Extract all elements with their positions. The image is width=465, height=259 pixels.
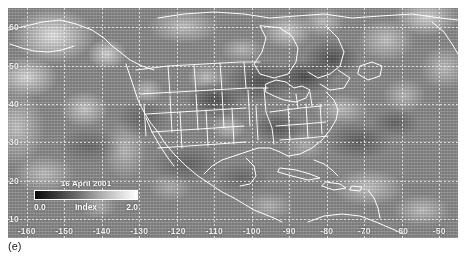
x-tick-label: -140 (93, 226, 111, 236)
colorbar-title-label: Index (75, 202, 97, 212)
island-hispaniola (322, 182, 346, 190)
x-tick-label: -120 (168, 226, 186, 236)
coastline-newfoundland (358, 62, 382, 80)
island-bahamas (314, 160, 338, 176)
y-tick-label: 10 (9, 214, 19, 224)
x-tick-label: -150 (55, 226, 73, 236)
coastline-yucatan (240, 158, 256, 186)
colorbar-max-label: 2.0 (126, 202, 138, 212)
y-tick-label: 60 (9, 22, 19, 32)
us-state-borders (136, 62, 328, 148)
legend-labels: 0.0 Index 2.0 (34, 202, 138, 212)
x-tick-label: -70 (358, 226, 371, 236)
y-tick-label: 40 (9, 99, 19, 109)
great-lakes (266, 80, 310, 102)
map-panel[interactable]: 16 April 2001 0.0 Index 2.0 -160-150-140… (8, 8, 458, 238)
figure-panel: 16 April 2001 0.0 Index 2.0 -160-150-140… (0, 0, 465, 259)
x-tick-label: -90 (283, 226, 296, 236)
panel-label: (e) (8, 240, 21, 252)
coastline-alaska (8, 20, 154, 70)
colorbar (34, 190, 138, 200)
y-tick-label: 50 (9, 61, 19, 71)
coastline-gulf-st-lawrence (320, 70, 350, 90)
legend-date: 16 April 2001 (34, 179, 138, 188)
coastline-aleutians (10, 44, 74, 52)
coastline-hudson-bay (254, 26, 298, 78)
coastline-greenland (432, 22, 458, 54)
x-tick-label: -160 (18, 226, 36, 236)
island-cuba (278, 168, 320, 180)
y-tick-label: 30 (9, 137, 19, 147)
x-tick-label: -50 (433, 226, 446, 236)
x-tick-label: -110 (206, 226, 223, 236)
x-tick-label: -130 (130, 226, 148, 236)
coastline-gulf-florida (204, 148, 288, 174)
x-tick-label: -60 (395, 226, 408, 236)
island-puerto-rico (350, 186, 362, 191)
x-tick-label: -80 (320, 226, 333, 236)
x-tick-label: -100 (243, 226, 261, 236)
coastline-us-west (126, 64, 164, 142)
y-tick-label: 20 (9, 176, 19, 186)
island-lesser-antilles (368, 190, 380, 218)
legend: 16 April 2001 0.0 Index 2.0 (34, 179, 138, 212)
coastline-mexico-pacific (164, 142, 234, 198)
coastline-baja (146, 118, 174, 166)
colorbar-min-label: 0.0 (34, 202, 46, 212)
coastline-arctic-north (158, 12, 458, 20)
coastline-central-america (234, 198, 282, 222)
